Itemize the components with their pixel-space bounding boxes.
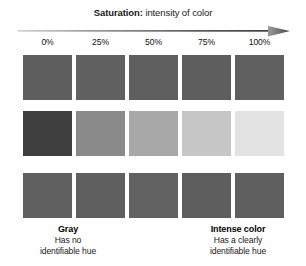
swatch-cell <box>233 111 286 156</box>
swatch-cell <box>21 111 74 156</box>
caption-gray-line1: Has no <box>8 235 128 246</box>
color-swatch <box>235 55 284 100</box>
color-swatch <box>182 55 231 100</box>
page-title-light: intensity of color <box>145 7 212 18</box>
caption-intense-color-title: Intense color <box>178 223 298 235</box>
caption-gray-title: Gray <box>8 223 128 235</box>
color-swatch <box>76 173 125 218</box>
page-title: Saturation: intensity of color <box>0 7 306 18</box>
caption-gray: Gray Has no identifiable hue <box>8 223 128 257</box>
swatch-cell <box>21 173 74 218</box>
color-swatch <box>76 55 125 100</box>
scale-tick-75: 75% <box>180 36 233 49</box>
swatch-row <box>21 55 286 100</box>
color-swatch <box>182 173 231 218</box>
saturation-scale-labels: 0% 25% 50% 75% 100% <box>21 36 286 49</box>
swatch-cell <box>21 55 74 100</box>
swatch-cell <box>180 111 233 156</box>
caption-intense-color-line1: Has a clearly <box>178 235 298 246</box>
scale-tick-50: 50% <box>127 36 180 49</box>
color-swatch <box>235 173 284 218</box>
swatch-row <box>21 173 286 218</box>
swatch-cell <box>233 55 286 100</box>
color-swatch <box>182 111 231 156</box>
page-title-strong: Saturation: <box>94 7 143 18</box>
caption-gray-line2: identifiable hue <box>8 246 128 257</box>
swatch-cell <box>127 55 180 100</box>
color-swatch <box>23 173 72 218</box>
color-swatch <box>23 55 72 100</box>
swatch-cell <box>74 55 127 100</box>
swatch-cell <box>233 173 286 218</box>
color-swatch <box>129 173 178 218</box>
swatch-cell <box>74 111 127 156</box>
caption-intense-color: Intense color Has a clearly identifiable… <box>178 223 298 257</box>
color-swatch <box>23 111 72 156</box>
color-swatch <box>129 111 178 156</box>
color-swatch <box>129 55 178 100</box>
swatch-cell <box>180 55 233 100</box>
scale-tick-100: 100% <box>233 36 286 49</box>
color-swatch <box>235 111 284 156</box>
swatch-row <box>21 111 286 156</box>
swatch-cell <box>127 173 180 218</box>
scale-tick-25: 25% <box>74 36 127 49</box>
swatch-cell <box>127 111 180 156</box>
caption-intense-color-line2: identifiable hue <box>178 246 298 257</box>
swatch-cell <box>180 173 233 218</box>
scale-tick-0: 0% <box>21 36 74 49</box>
right-arrow-gradient-icon <box>18 23 290 35</box>
swatch-cell <box>74 173 127 218</box>
color-swatch <box>76 111 125 156</box>
